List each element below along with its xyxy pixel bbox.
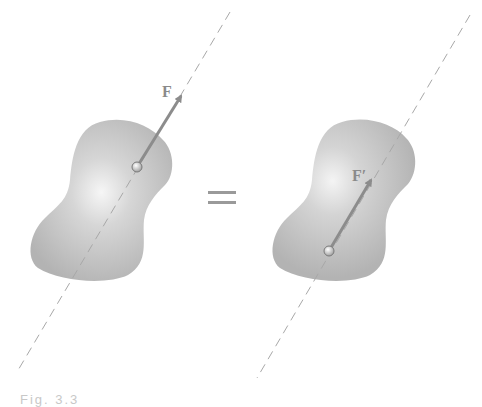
left-panel [17,12,230,372]
line-of-action-right [257,15,470,378]
point-of-application-right [324,246,334,256]
equals-sign [208,191,236,204]
right-panel [257,15,470,378]
force-label-left: F [162,84,172,100]
figure-caption: Fig. 3.3 [20,392,79,407]
rigid-body-right [273,120,416,281]
point-of-application-left [132,162,142,172]
force-label-right: F′ [352,168,366,184]
